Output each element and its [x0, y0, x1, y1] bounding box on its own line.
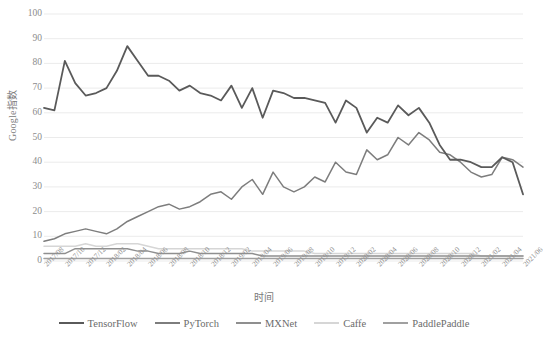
plot-svg: [44, 14, 523, 261]
chart-legend: TensorFlowPyTorchMXNetCaffePaddlePaddle: [0, 313, 528, 333]
legend-label: MXNet: [265, 318, 297, 329]
legend-item-paddlepaddle[interactable]: PaddlePaddle: [383, 318, 469, 329]
x-axis-title: 时间: [0, 289, 528, 304]
legend-label: PyTorch: [184, 318, 219, 329]
y-axis-tick-label: 20: [33, 207, 43, 217]
x-axis-tick-labels: 2017/082017/102017/122018/022018/042018/…: [44, 262, 523, 292]
legend-item-mxnet[interactable]: MXNet: [236, 318, 297, 329]
y-axis-tick-label: 60: [33, 108, 43, 118]
plot-area: [44, 14, 523, 261]
series-line-tensorflow: [44, 46, 523, 194]
y-axis-tick-label: 30: [33, 182, 43, 192]
y-axis-tick-label: 40: [33, 157, 43, 167]
legend-item-pytorch[interactable]: PyTorch: [155, 318, 219, 329]
legend-item-tensorflow[interactable]: TensorFlow: [59, 318, 138, 329]
gridlines: [44, 14, 523, 261]
y-axis-tick-label: 10: [33, 231, 43, 241]
legend-label: Caffe: [343, 318, 366, 329]
series-lines: [44, 46, 523, 258]
legend-swatch-tensorflow: [59, 322, 84, 324]
legend-label: TensorFlow: [88, 318, 138, 329]
legend-swatch-caffe: [314, 322, 339, 324]
y-axis-tick-label: 70: [33, 83, 43, 93]
y-axis-tick-label: 50: [33, 133, 43, 143]
legend-label: PaddlePaddle: [412, 318, 469, 329]
legend-item-caffe[interactable]: Caffe: [314, 318, 366, 329]
legend-swatch-mxnet: [236, 322, 261, 324]
legend-swatch-pytorch: [155, 322, 180, 324]
x-axis-tick-label: 2021/06: [521, 245, 545, 269]
y-axis-title: Google指数: [4, 78, 19, 154]
legend-swatch-paddlepaddle: [383, 322, 408, 324]
y-axis-tick-label: 100: [28, 9, 42, 19]
y-axis-tick-label: 90: [33, 34, 43, 44]
y-axis-tick-label: 80: [33, 58, 43, 68]
